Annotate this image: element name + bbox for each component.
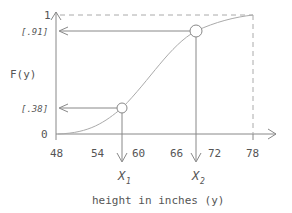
- cdf-curve: [58, 15, 253, 134]
- x-axis-label: height in inches (y): [92, 194, 224, 207]
- x-tick-54: 54: [91, 147, 105, 160]
- y-axis-label: F(y): [10, 68, 37, 81]
- y-tick-0: 0: [41, 128, 48, 141]
- point-x2: [190, 25, 202, 37]
- label-38: [.38]: [21, 104, 48, 114]
- x-tick-48: 48: [50, 147, 63, 160]
- x-tick-78: 78: [246, 147, 259, 160]
- x2-subscript: 2: [200, 177, 205, 186]
- label-91: [.91]: [21, 27, 48, 37]
- y-tick-1: 1: [44, 9, 51, 22]
- point-x1: [117, 103, 127, 113]
- cdf-chart: 1 0 [.91] [.38] F(y) 48 54 60 66 72 78 X…: [0, 0, 292, 213]
- x2-label: X: [191, 169, 200, 183]
- x-tick-72: 72: [208, 147, 221, 160]
- x-tick-66: 66: [170, 147, 183, 160]
- x1-label: X: [117, 169, 126, 183]
- x1-subscript: 1: [126, 177, 131, 186]
- x-tick-60: 60: [132, 147, 145, 160]
